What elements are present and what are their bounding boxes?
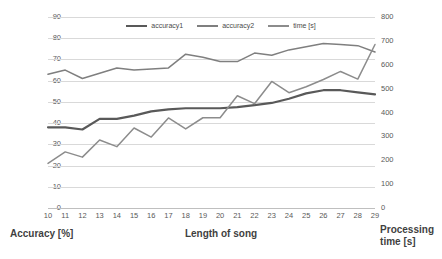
x-axis-tick-label: 13 — [95, 212, 103, 220]
x-axis-tick-label: 26 — [319, 212, 327, 220]
gridline — [48, 208, 375, 209]
y-axis-right-tick-label: 700 — [381, 37, 421, 45]
x-axis-tick-label: 25 — [302, 212, 310, 220]
x-axis-tick-label: 29 — [371, 212, 379, 220]
y-axis-right-tick-label: 100 — [381, 180, 421, 188]
x-axis-tick-label: 22 — [250, 212, 258, 220]
x-axis-tick-label: 16 — [147, 212, 155, 220]
y-axis-right-tick-label: 200 — [381, 157, 421, 165]
x-axis-tick-label: 24 — [285, 212, 293, 220]
plot-area — [48, 17, 375, 208]
y-axis-right-tick-label: 300 — [381, 133, 421, 141]
y-axis-right-title: Processingtime [s] — [380, 224, 434, 247]
x-axis-tick-label: 14 — [113, 212, 121, 220]
x-axis-tick-label: 10 — [44, 212, 52, 220]
x-axis-tick-label: 12 — [78, 212, 86, 220]
y-axis-right-tick-label: 0 — [381, 204, 421, 212]
x-axis-tick-label: 20 — [216, 212, 224, 220]
x-axis-tick-label: 23 — [268, 212, 276, 220]
y-axis-right-tick-label: 400 — [381, 109, 421, 117]
x-axis-tick-label: 19 — [199, 212, 207, 220]
series-line-time-s- — [48, 44, 375, 163]
x-axis-title: Length of song — [0, 228, 442, 240]
y-axis-right-tick-label: 600 — [381, 61, 421, 69]
series-line-accuracy1 — [48, 90, 375, 129]
x-axis-tick-label: 28 — [354, 212, 362, 220]
x-axis-tick-label: 11 — [61, 212, 69, 220]
line-chart: 0102030405060708090 01002003004005006007… — [0, 0, 442, 259]
series-layer — [48, 17, 375, 208]
x-axis-tick-label: 27 — [336, 212, 344, 220]
y-axis-right-tick-label: 500 — [381, 85, 421, 93]
x-axis-tick-label: 18 — [182, 212, 190, 220]
x-axis-tick-label: 17 — [164, 212, 172, 220]
series-line-accuracy2 — [48, 44, 375, 79]
x-axis-tick-label: 21 — [233, 212, 241, 220]
x-axis-tick-label: 15 — [130, 212, 138, 220]
y-axis-right-tick-label: 800 — [381, 13, 421, 21]
y-axis-right-title-line1: Processing — [380, 224, 434, 236]
y-axis-right-title-line2: time [s] — [380, 236, 434, 248]
